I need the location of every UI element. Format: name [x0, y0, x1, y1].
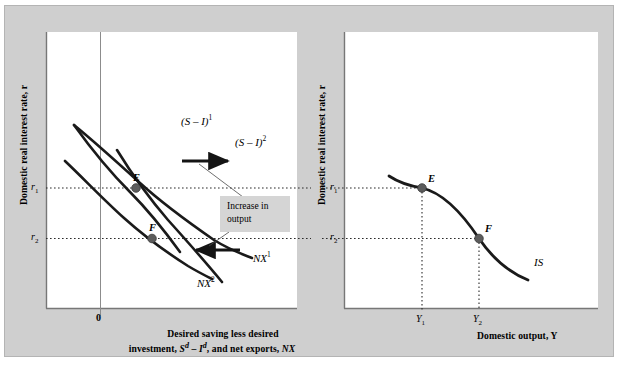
left-x-axis-line2-post: , and net exports, — [207, 343, 282, 354]
left-x-axis-title: Desired saving less desired investment, … — [128, 328, 318, 355]
left-y-tick-r2: r2 — [31, 231, 38, 245]
increase-in-output-callout: Increase in output — [220, 196, 290, 232]
left-y-tick-r1: r1 — [31, 181, 38, 195]
left-plot-canvas — [46, 32, 297, 309]
left-x-axis-line2-NX: NX — [282, 343, 296, 354]
right-y-tick-r2: r2 — [330, 231, 337, 245]
curve-label-IS: IS — [534, 256, 543, 268]
right-y-tick-r1: r1 — [330, 181, 337, 195]
left-origin-label: 0 — [96, 312, 101, 323]
left-y-axis-title: Domestic real interest rate, r — [18, 85, 30, 205]
right-x-tick-Y2: Y2 — [473, 313, 482, 327]
left-x-axis-line2-pre: investment, — [129, 343, 180, 354]
curve-label-s-minus-i-1: (S – I)1 — [181, 113, 212, 127]
point-label-E-right: E — [428, 173, 435, 184]
right-plot-canvas — [344, 32, 598, 309]
left-x-axis-line2-mid: – — [189, 343, 199, 354]
curve-label-nx-1: NX1 — [253, 250, 271, 264]
point-label-F-right: F — [485, 223, 492, 234]
right-y-axis-title: Domestic real interest rate, r — [316, 85, 328, 205]
left-x-axis-title-line1: Desired saving less desired — [128, 328, 318, 340]
figure-root: Domestic real interest rate, r Desired s… — [0, 0, 622, 366]
curve-label-s-minus-i-2: (S – I)2 — [235, 134, 266, 148]
left-x-axis-title-line2: investment, Sd – Id, and net exports, NX — [106, 340, 318, 355]
right-x-axis-title: Domestic output, Y — [477, 330, 558, 342]
point-label-E-left: E — [133, 172, 140, 183]
curve-label-nx-2: NX2 — [197, 275, 215, 289]
right-x-tick-Y1: Y1 — [416, 313, 425, 327]
point-label-F-left: F — [149, 222, 156, 233]
